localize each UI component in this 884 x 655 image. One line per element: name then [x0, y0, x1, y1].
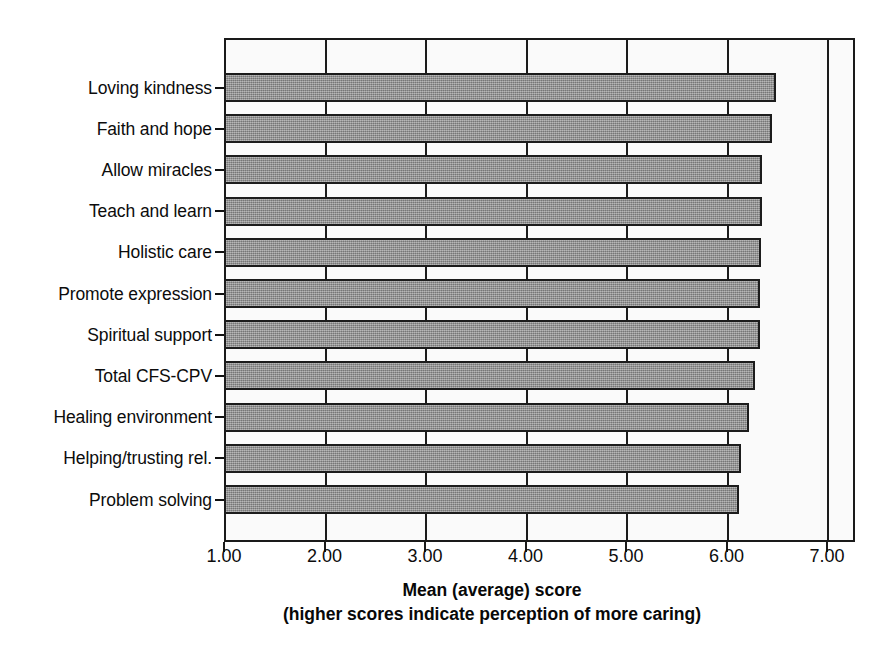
x-tick-label: 1.00: [184, 545, 264, 567]
category-label: Faith and hope: [0, 119, 212, 139]
x-tick-label: 2.00: [285, 545, 365, 567]
bar: [224, 238, 761, 267]
category-label: Problem solving: [0, 490, 212, 510]
category-tick: [215, 416, 224, 418]
bar: [224, 444, 741, 473]
category-tick: [215, 293, 224, 295]
bar: [224, 279, 760, 308]
category-tick: [215, 210, 224, 212]
bar: [224, 320, 760, 349]
bar: [224, 361, 755, 390]
category-label: Promote expression: [0, 284, 212, 304]
category-label: Teach and learn: [0, 201, 212, 221]
x-tick-label: 3.00: [385, 545, 465, 567]
category-label: Allow miracles: [0, 160, 212, 180]
x-tick-label: 6.00: [687, 545, 767, 567]
category-axis-labels: Loving kindnessFaith and hopeAllow mirac…: [0, 38, 212, 542]
category-label: Holistic care: [0, 242, 212, 262]
bar: [224, 114, 772, 143]
category-label: Healing environment: [0, 407, 212, 427]
bar-chart-figure: Loving kindnessFaith and hopeAllow mirac…: [0, 0, 884, 655]
category-tick: [215, 375, 224, 377]
category-label: Spiritual support: [0, 325, 212, 345]
x-tick-label: 5.00: [586, 545, 666, 567]
category-label: Total CFS-CPV: [0, 366, 212, 386]
x-axis-title-line2: (higher scores indicate perception of mo…: [162, 602, 822, 626]
category-tick: [215, 457, 224, 459]
bar: [224, 485, 739, 514]
category-tick: [215, 169, 224, 171]
bars-layer: [224, 38, 855, 542]
bar: [224, 73, 776, 102]
x-tick-label: 7.00: [787, 545, 867, 567]
x-axis-title-line1: Mean (average) score: [403, 580, 582, 600]
category-tick: [215, 499, 224, 501]
x-tick-label: 4.00: [486, 545, 566, 567]
x-axis-title: Mean (average) score (higher scores indi…: [162, 578, 822, 626]
bar: [224, 197, 762, 226]
category-tick: [215, 128, 224, 130]
category-label: Loving kindness: [0, 78, 212, 98]
category-tick: [215, 251, 224, 253]
category-label: Helping/trusting rel.: [0, 448, 212, 468]
category-tick: [215, 334, 224, 336]
bar: [224, 403, 749, 432]
bar: [224, 155, 762, 184]
category-tick: [215, 87, 224, 89]
